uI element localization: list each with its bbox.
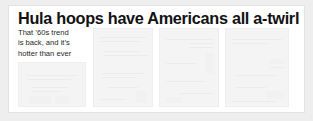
page-background: Hula hoops have Americans all a-twirl Th… bbox=[0, 0, 313, 121]
photo-texture-2 bbox=[94, 29, 152, 106]
photo-texture-4 bbox=[226, 29, 288, 106]
photo-placeholder-1 bbox=[18, 62, 86, 107]
photo-texture-3 bbox=[160, 29, 218, 106]
photo-placeholder-2 bbox=[93, 28, 153, 107]
photo-placeholder-3 bbox=[159, 28, 219, 107]
photo-placeholder-4 bbox=[225, 28, 289, 107]
article-card: Hula hoops have Americans all a-twirl Th… bbox=[8, 5, 305, 113]
photo-texture-1 bbox=[19, 63, 85, 106]
photo-strip bbox=[9, 6, 306, 114]
